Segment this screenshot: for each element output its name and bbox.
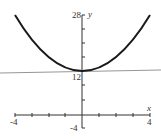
y-mid-label: 12 (72, 72, 81, 82)
y-min-label: -4 (70, 123, 78, 133)
x-min-label: -4 (10, 117, 18, 127)
x-max-label: 4 (147, 117, 152, 127)
x-axis-label: x (146, 103, 151, 113)
y-axis-label: y (87, 9, 92, 19)
y-max-label: 28 (72, 10, 82, 20)
chart: 28 y 12 -4 x -4 4 (0, 0, 161, 139)
